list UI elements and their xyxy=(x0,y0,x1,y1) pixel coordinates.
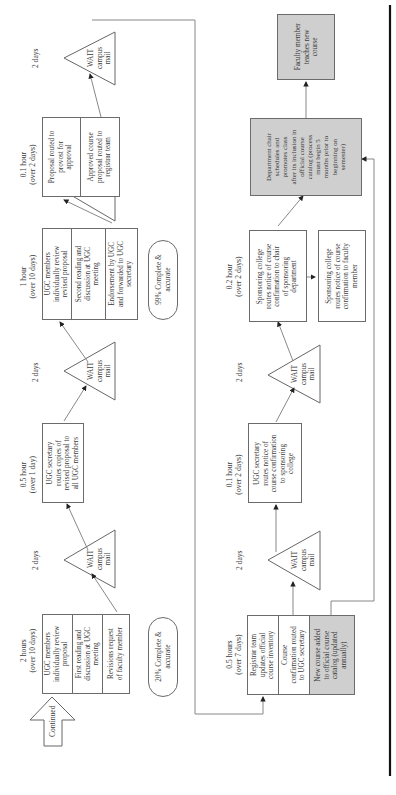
step1-section-3: Revisions requestof faculty member xyxy=(103,615,129,693)
step5-section-1: Registrar teamupdates officialcourse inv… xyxy=(248,616,279,694)
step7-text: Sponsoring collegeroutes notice of cours… xyxy=(250,231,306,321)
step5-section-2: Courseconfirmation routedto UGC secretar… xyxy=(279,616,310,694)
step7b-box: Sponsoring collegeroutes notice of cours… xyxy=(318,230,366,322)
step9-box: Faculty memberteaches newcourse xyxy=(277,14,335,80)
continued-label: Continued xyxy=(44,697,62,746)
step4-box: Proposal routed toprovost forapproval Ap… xyxy=(42,117,120,197)
wait4-duration: 2 days xyxy=(232,540,248,580)
step3-section-1: UGC membersindividually reviewrevised pr… xyxy=(43,229,72,319)
step8-text: Department chairschedules andpromotes cl… xyxy=(251,119,361,195)
step2-time: 0.5 hour(over 1 day) xyxy=(18,440,40,510)
step1-section-1: UGC membersindividually reviewproposal xyxy=(43,615,73,693)
wait2-label: WAITcampusmail xyxy=(86,348,114,394)
step7b-text: Sponsoring collegeroutes notice of cours… xyxy=(319,231,365,321)
step6-text: UGC secretaryroutes notice ofcourse conf… xyxy=(249,424,301,502)
step7-box: Sponsoring collegeroutes notice of cours… xyxy=(249,230,307,322)
step5-box: Registrar teamupdates officialcourse inv… xyxy=(247,615,355,695)
step8-box: Department chairschedules andpromotes cl… xyxy=(250,118,362,196)
step4-section-1: Proposal routed toprovost forapproval xyxy=(43,118,81,196)
step2-box: UGC secretaryroutes copies ofrevised pro… xyxy=(42,423,84,503)
step9-text: Faculty memberteaches newcourse xyxy=(278,15,334,79)
wait4-label: WAITcampusmail xyxy=(290,537,318,583)
step4-time: 0.1 hour(over 2 days) xyxy=(18,130,40,200)
step7-time: 0.2 hour(over 2 days) xyxy=(224,242,246,312)
step3-time: 1 hour(over 10 days) xyxy=(18,238,40,316)
step1-section-2: First reading anddiscussion at UGCmeetin… xyxy=(73,615,103,693)
wait3-label: WAITcampusmail xyxy=(86,35,114,81)
step1-time: 2 hours(over 10 days) xyxy=(18,610,40,692)
step6-box: UGC secretaryroutes notice ofcourse conf… xyxy=(248,423,302,503)
step3-section-2: Second reading anddiscussion at UGCmeeti… xyxy=(72,229,106,319)
wait1-duration: 2 days xyxy=(28,540,44,580)
wait2-duration: 2 days xyxy=(28,352,44,392)
step2-text: UGC secretaryroutes copies ofrevised pro… xyxy=(43,424,83,502)
wait5-duration: 2 days xyxy=(232,352,248,392)
step4-section-2: Approved courseproposal routed toregistr… xyxy=(81,118,119,196)
step3-box: UGC membersindividually reviewrevised pr… xyxy=(42,228,138,320)
wait1-label: WAITcampusmail xyxy=(86,536,114,582)
step3-section-3: Endorsement by UGCand forwarded to UGCse… xyxy=(106,229,137,319)
step6-time: 0.1 hour(over 2 days) xyxy=(224,440,246,510)
step5-time: 0.5 hours(over 7 days) xyxy=(224,620,246,690)
quality-note-99pct: 99% Complete &accurate xyxy=(148,240,178,320)
quality-note-20pct: 20% Complete &accurate xyxy=(148,617,178,697)
step5-section-3: New course addedto official coursecatalo… xyxy=(310,616,354,694)
wait3-duration: 2 days xyxy=(28,38,44,78)
wait5-label: WAITcampusmail xyxy=(290,351,318,397)
step1-box: UGC membersindividually reviewproposal F… xyxy=(42,614,130,694)
